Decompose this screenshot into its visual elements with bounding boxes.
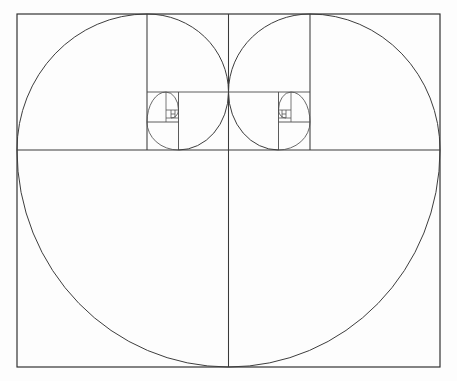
- fibonacci-figure-root: Fibonacci Golden Spiral (mirrored pair) …: [0, 0, 457, 381]
- fibonacci-spiral-canvas: [0, 0, 457, 381]
